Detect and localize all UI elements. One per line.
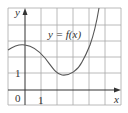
origin-label: 0	[15, 93, 21, 104]
y-axis-arrow-icon	[23, 8, 28, 15]
curve-f	[8, 8, 99, 75]
curve-label: y = f(x)	[48, 29, 81, 40]
axes	[8, 8, 121, 105]
x-tick-label-1: 1	[38, 95, 44, 106]
x-axis-arrow-icon	[114, 88, 121, 93]
y-tick-label-1: 1	[15, 68, 21, 79]
curve-label-text: y = f(x)	[48, 28, 81, 40]
x-axis-label: x	[114, 94, 119, 105]
y-axis-label: y	[15, 7, 20, 18]
